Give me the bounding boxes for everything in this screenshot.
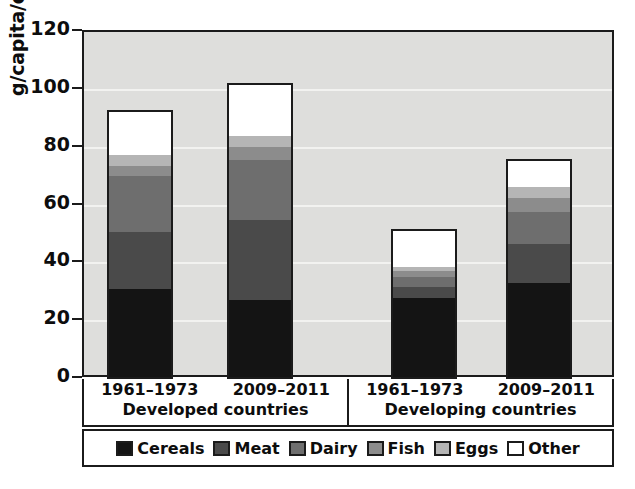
y-axis-tick-label: 80 (44, 133, 70, 155)
bar-segment-meat[interactable] (508, 244, 570, 284)
y-axis-tick-label: 100 (30, 75, 70, 97)
bar-segment-dairy[interactable] (109, 176, 171, 232)
bar-segment-fish[interactable] (508, 198, 570, 212)
y-axis-tick-label: 60 (44, 191, 70, 213)
y-axis-tick (72, 318, 82, 320)
bar-segment-fish[interactable] (229, 147, 291, 160)
legend-swatch-cereals (116, 441, 133, 456)
bar-segment-other[interactable] (393, 231, 455, 268)
bar-segment-eggs[interactable] (109, 155, 171, 166)
legend-swatch-fish (367, 441, 384, 456)
legend-item[interactable]: Other (507, 439, 579, 458)
x-axis-labels: 1961–19732009–2011Developed countries196… (82, 379, 614, 427)
x-axis-group-label: Developing countries (385, 400, 577, 419)
bar-segment-cereals[interactable] (229, 300, 291, 377)
bar-segment-cereals[interactable] (393, 298, 455, 377)
bar-segment-meat[interactable] (393, 287, 455, 298)
chart-legend: CerealsMeatDairyFishEggsOther (82, 429, 614, 467)
y-axis-tick (72, 145, 82, 147)
y-axis-tick-label: 0 (57, 364, 70, 386)
x-axis-period-row: 1961–19732009–2011 (349, 380, 612, 399)
legend-item[interactable]: Eggs (434, 439, 498, 458)
bar-segment-meat[interactable] (229, 220, 291, 300)
y-axis-tick (72, 29, 82, 31)
y-axis-tick-label: 20 (44, 306, 70, 328)
bar[interactable] (506, 159, 572, 379)
legend-swatch-meat (213, 441, 230, 456)
bar-segment-eggs[interactable] (508, 187, 570, 198)
legend-label: Meat (234, 439, 279, 458)
bar-segment-cereals[interactable] (109, 289, 171, 377)
legend-item[interactable]: Dairy (289, 439, 358, 458)
x-axis-group-label: Developed countries (123, 400, 309, 419)
legend-swatch-eggs (434, 441, 451, 456)
bar[interactable] (391, 229, 457, 379)
bar[interactable] (107, 110, 173, 379)
x-axis-period-label: 2009–2011 (498, 380, 595, 399)
y-axis-title: g/capita/day (6, 0, 28, 96)
legend-swatch-other (507, 441, 524, 456)
y-axis-tick (72, 87, 82, 89)
x-axis-period-row: 1961–19732009–2011 (84, 380, 347, 399)
y-axis-tick (72, 376, 82, 378)
bar[interactable] (227, 83, 293, 379)
bar-segment-cereals[interactable] (508, 283, 570, 377)
x-axis-group: 1961–19732009–2011Developed countries (84, 379, 347, 425)
y-axis-tick-label: 40 (44, 248, 70, 270)
y-axis-tick (72, 203, 82, 205)
bar-segment-dairy[interactable] (393, 277, 455, 287)
bar-segment-other[interactable] (109, 112, 171, 155)
bar-segment-eggs[interactable] (229, 136, 291, 147)
gridline (84, 89, 612, 91)
legend-label: Fish (388, 439, 425, 458)
bar-segment-meat[interactable] (109, 232, 171, 289)
legend-label: Other (528, 439, 579, 458)
legend-label: Cereals (137, 439, 204, 458)
stacked-bar-chart-figure: g/capita/day 020406080100120 1961–197320… (0, 0, 635, 489)
legend-item[interactable]: Fish (367, 439, 425, 458)
y-axis-tick-label: 120 (30, 17, 70, 39)
x-axis-period-label: 1961–1973 (366, 380, 463, 399)
bar-segment-other[interactable] (229, 85, 291, 136)
bar-segment-fish[interactable] (109, 166, 171, 176)
legend-item[interactable]: Cereals (116, 439, 204, 458)
legend-swatch-dairy (289, 441, 306, 456)
legend-label: Eggs (455, 439, 498, 458)
plot-area (82, 30, 614, 377)
bar-segment-other[interactable] (508, 161, 570, 187)
legend-item[interactable]: Meat (213, 439, 279, 458)
legend-label: Dairy (310, 439, 358, 458)
x-axis-period-label: 1961–1973 (101, 380, 198, 399)
x-axis-period-label: 2009–2011 (233, 380, 330, 399)
bar-segment-dairy[interactable] (229, 160, 291, 220)
y-axis-tick (72, 260, 82, 262)
x-axis-group: 1961–19732009–2011Developing countries (347, 379, 612, 425)
bar-segment-dairy[interactable] (508, 212, 570, 243)
